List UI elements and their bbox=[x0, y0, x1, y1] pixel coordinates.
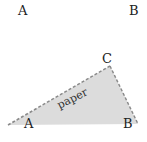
top-label-a: A bbox=[17, 3, 28, 18]
folding-diagram: A B C A B paper bbox=[0, 0, 147, 142]
vertex-label-c: C bbox=[102, 51, 112, 66]
vertex-label-a: A bbox=[23, 116, 34, 131]
vertex-label-b: B bbox=[123, 116, 133, 131]
top-label-b: B bbox=[129, 3, 139, 18]
